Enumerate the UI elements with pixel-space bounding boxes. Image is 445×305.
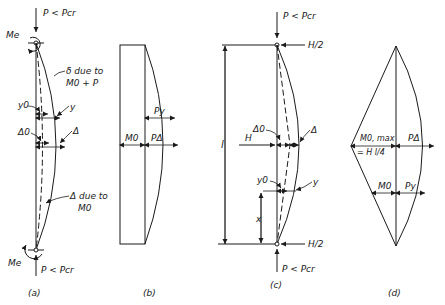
m0-label: M0 — [378, 181, 392, 191]
y-label: y — [312, 177, 319, 187]
bottom-load-label: P < Pcr — [41, 265, 75, 275]
py-label: Py — [154, 106, 165, 116]
first-order-deflection — [36, 43, 43, 250]
y0-label: y0 — [17, 100, 29, 110]
bottom-moment-label: Me — [8, 258, 22, 268]
caption-d: (d) — [388, 288, 401, 298]
y0-label: y0 — [256, 175, 268, 185]
m0-label: M0 — [125, 133, 139, 143]
panel-a: P < Pcr Me δ due to M0 + P y0 y Δ0 Δ Δ d… — [6, 8, 108, 298]
panel-d: M0, max = H l/4 PΔ M0 Py (d) — [351, 46, 434, 298]
pdelta-label: PΔ — [151, 133, 163, 143]
delta0-label: Δ0 — [252, 124, 265, 134]
total-deflection — [277, 45, 299, 244]
m0max-label: M0, max — [360, 134, 395, 143]
length-label: l — [221, 139, 224, 150]
top-load-label: P < Pcr — [43, 8, 77, 18]
beam-column-moment-diagram: P < Pcr Me δ due to M0 + P y0 y Δ0 Δ Δ d… — [0, 0, 445, 305]
top-reaction-label: H/2 — [308, 40, 324, 50]
delta-label: Δ — [310, 125, 317, 135]
bottom-pin-icon — [275, 242, 279, 246]
primary-moment-rect — [120, 45, 145, 244]
x-label: x — [255, 214, 262, 224]
top-load-label: P < Pcr — [283, 11, 317, 21]
bottom-load-label: P < Pcr — [282, 264, 316, 274]
first-order-deflection-label: Δ due to — [69, 191, 108, 201]
py-label: Py — [405, 181, 416, 191]
bottom-pin-icon — [34, 248, 38, 252]
leader-line — [54, 71, 65, 76]
panel-c: P < Pcr H/2 l H Δ0 Δ y0 y x — [218, 11, 324, 290]
first-order-deflection-label-2: M0 — [78, 203, 92, 213]
bottom-reaction-label: H/2 — [308, 239, 324, 249]
caption-b: (b) — [143, 288, 156, 298]
delta-label: Δ — [72, 126, 79, 136]
delta0-label: Δ0 — [17, 127, 30, 137]
caption-c: (c) — [270, 280, 282, 290]
bottom-moment-arrow-icon — [25, 245, 42, 259]
panel-b: Py M0 PΔ (b) — [120, 45, 178, 298]
pdelta-label: PΔ — [408, 133, 420, 143]
lateral-load-label: H — [245, 133, 252, 143]
total-deflection-label-2: M0 + P — [66, 78, 99, 88]
caption-a: (a) — [28, 288, 41, 298]
m0max-eq-label: = H l/4 — [357, 148, 385, 157]
y-label: y — [69, 102, 76, 112]
secondary-moment-curve — [145, 45, 163, 244]
top-moment-label: Me — [6, 30, 20, 40]
total-deflection-label: δ due to — [66, 66, 104, 76]
